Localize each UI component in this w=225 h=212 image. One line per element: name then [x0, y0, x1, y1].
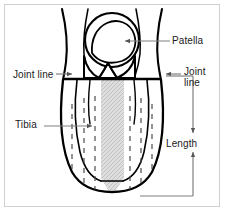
label-length: Length	[166, 138, 197, 149]
patella-circle	[85, 13, 139, 67]
knee-diagram-drawing	[0, 0, 225, 212]
label-joint-line-right: Joint line	[184, 66, 218, 88]
label-joint-line-right-line2: line	[184, 77, 200, 88]
knee-diagram-figure: Patella Joint line Joint line Tibia Leng…	[0, 0, 225, 212]
label-tibia: Tibia	[15, 119, 37, 130]
label-patella: Patella	[172, 35, 203, 46]
central-shaded-band	[101, 78, 124, 190]
label-joint-line-left: Joint line	[13, 69, 53, 80]
label-joint-line-right-line1: Joint	[184, 66, 206, 77]
